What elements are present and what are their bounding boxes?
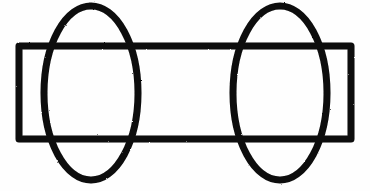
figure-svg: [0, 0, 370, 191]
diagram-canvas: [0, 0, 370, 191]
